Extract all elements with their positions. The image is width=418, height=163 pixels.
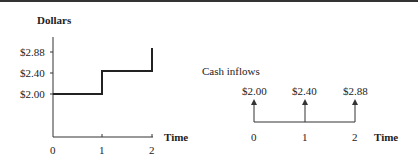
- cash-flow-diagram: Cash inflows $2.00 $2.40 $2.88 0 1 2 Tim…: [202, 65, 398, 143]
- time-label: 1: [302, 131, 308, 143]
- time-label: 2: [352, 131, 358, 143]
- diagram-title: Cash inflows: [202, 65, 260, 77]
- y-tick-label: $2.00: [20, 88, 45, 100]
- time-label: 0: [251, 131, 257, 143]
- x-axis-title: Time: [164, 131, 188, 143]
- x-tick-label: 2: [149, 144, 155, 156]
- y-tick-label: $2.40: [20, 67, 45, 79]
- amount-label: $2.00: [242, 85, 267, 97]
- y-axis-title: Dollars: [37, 14, 72, 26]
- amount-label: $2.40: [292, 85, 317, 97]
- y-tick-label: $2.88: [20, 46, 45, 58]
- step-line: [53, 48, 152, 94]
- figure: Dollars $2.88 $2.40 $2.00 0 1 2 Time Cas…: [0, 0, 418, 163]
- x-tick-label: 0: [50, 144, 56, 156]
- step-chart: Dollars $2.88 $2.40 $2.00 0 1 2 Time: [20, 14, 188, 156]
- time-axis-title: Time: [374, 131, 398, 143]
- amount-label: $2.88: [343, 85, 368, 97]
- x-tick-label: 1: [99, 144, 105, 156]
